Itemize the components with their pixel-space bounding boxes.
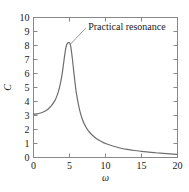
y-tick-label: 2 <box>25 124 30 135</box>
y-tick-label: 7 <box>25 54 30 65</box>
y-tick-label: 8 <box>25 40 30 51</box>
y-tick-label: 0 <box>25 152 30 163</box>
x-tick-label: 10 <box>101 160 111 171</box>
chart-figure: 012345678910 05101520 Practical resonanc… <box>0 0 189 192</box>
x-axis-title: ω <box>102 172 109 183</box>
y-tick-label: 10 <box>20 12 30 23</box>
y-axis-title: C <box>2 84 13 91</box>
y-tick-label: 6 <box>25 68 30 79</box>
practical-resonance-chart: 012345678910 05101520 Practical resonanc… <box>0 0 189 192</box>
y-tick-label: 9 <box>25 26 30 37</box>
annotation-practical-resonance: Practical resonance <box>88 21 166 32</box>
x-tick-label: 15 <box>137 160 147 171</box>
y-tick-label: 1 <box>25 138 30 149</box>
x-tick-label: 0 <box>31 160 36 171</box>
y-tick-label: 3 <box>25 110 30 121</box>
y-tick-label: 5 <box>25 82 30 93</box>
x-tick-label: 20 <box>173 160 183 171</box>
y-tick-label: 4 <box>25 96 30 107</box>
x-tick-label: 5 <box>67 160 72 171</box>
